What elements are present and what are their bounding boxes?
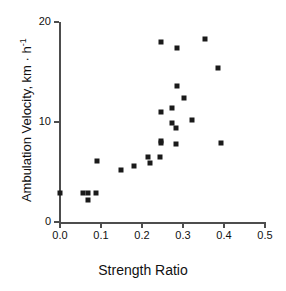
x-tick-label: 0.0: [52, 230, 67, 241]
y-axis-title-text: Ambulation Velocity, km · h: [19, 46, 34, 202]
data-point: [148, 161, 153, 166]
data-point: [158, 40, 163, 45]
data-point: [169, 106, 174, 111]
x-tick-label: 0.1: [93, 230, 108, 241]
y-tick-mark: [54, 21, 59, 23]
data-point: [132, 164, 137, 169]
plot-area: 01020 0.00.10.20.30.40.5: [60, 22, 265, 222]
x-tick-label: 0.3: [175, 230, 190, 241]
y-tick-label: 0: [45, 216, 51, 227]
data-point: [158, 139, 163, 144]
data-point: [216, 66, 221, 71]
data-point: [146, 155, 151, 160]
x-tick-mark: [182, 223, 184, 228]
y-tick-mark: [54, 121, 59, 123]
data-point: [174, 46, 179, 51]
x-tick-mark: [141, 223, 143, 228]
data-point: [158, 155, 163, 160]
data-point: [174, 126, 179, 131]
x-tick-mark: [100, 223, 102, 228]
data-point: [203, 37, 208, 42]
y-tick-label: 20: [39, 16, 51, 27]
x-tick-label: 0.5: [257, 230, 272, 241]
data-point: [85, 198, 90, 203]
y-tick-label: 10: [39, 116, 51, 127]
data-point: [174, 84, 179, 89]
y-axis-title: Ambulation Velocity, km · h-1: [18, 10, 34, 230]
scatter-plot-figure: 01020 0.00.10.20.30.40.5 Ambulation Velo…: [0, 0, 286, 291]
data-point: [174, 142, 179, 147]
data-point: [94, 191, 99, 196]
data-point: [119, 168, 124, 173]
data-point: [85, 191, 90, 196]
data-point: [58, 191, 63, 196]
x-axis-line: [59, 222, 266, 224]
data-point: [219, 141, 224, 146]
data-point: [182, 96, 187, 101]
data-point: [190, 118, 195, 123]
data-point: [158, 110, 163, 115]
x-tick-mark: [59, 223, 61, 228]
x-tick-label: 0.2: [134, 230, 149, 241]
x-tick-mark: [223, 223, 225, 228]
x-tick-label: 0.4: [216, 230, 231, 241]
data-point: [94, 159, 99, 164]
x-axis-title: Strength Ratio: [0, 262, 286, 278]
y-axis-title-exponent: -1: [18, 38, 28, 46]
x-tick-mark: [264, 223, 266, 228]
